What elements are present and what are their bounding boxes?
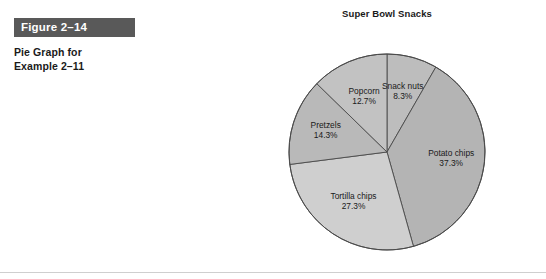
figure-caption-line-1: Pie Graph for (14, 45, 174, 59)
figure-page: Figure 2–14 Pie Graph for Example 2–11 S… (0, 0, 546, 279)
figure-number-banner: Figure 2–14 (14, 18, 135, 37)
pie-slice-percent: 37.3% (439, 158, 463, 168)
figure-caption-block: Figure 2–14 Pie Graph for Example 2–11 (14, 18, 174, 73)
pie-slice-percent: 12.7% (352, 96, 376, 106)
pie-slice-label: Pretzels (311, 120, 341, 130)
pie-slice-percent: 27.3% (342, 201, 366, 211)
figure-caption-line-2: Example 2–11 (14, 59, 174, 73)
pie-slice-label: Snack nuts (382, 81, 423, 91)
pie-slice-percent: 14.3% (314, 130, 338, 140)
figure-number-label: Figure 2–14 (21, 22, 87, 34)
figure-caption-text: Pie Graph for Example 2–11 (14, 45, 174, 73)
pie-chart-svg: Snack nuts8.3%Potato chips37.3%Tortilla … (262, 0, 522, 279)
pie-slice-percent: 8.3% (393, 91, 413, 101)
pie-slice-label: Popcorn (348, 86, 380, 96)
pie-slice-label: Tortilla chips (330, 191, 376, 201)
pie-slice-label: Potato chips (428, 148, 474, 158)
pie-chart-area: Super Bowl Snacks Snack nuts8.3%Potato c… (262, 0, 522, 279)
page-bottom-rule (0, 272, 546, 273)
